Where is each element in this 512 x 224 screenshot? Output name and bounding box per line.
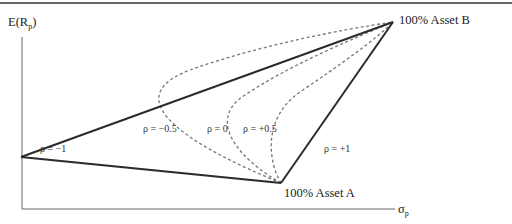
- x-axis-label: σp: [398, 202, 409, 218]
- label-asset-a: 100% Asset A: [284, 186, 355, 200]
- curve-rho-m05: [159, 22, 393, 183]
- label-rho-p1: ρ = +1: [324, 143, 350, 154]
- label-rho-m1: ρ = −1: [40, 143, 66, 154]
- portfolio-frontier-chart: E(Rp) σp ρ = −1 ρ = −0.5 ρ = 0 ρ = +0.5 …: [0, 0, 512, 224]
- curve-rho-p05: [271, 22, 393, 183]
- y-axis-label: E(Rp): [8, 15, 36, 31]
- label-rho-m05: ρ = −0.5: [143, 123, 177, 134]
- curve-rho-0: [227, 22, 393, 183]
- line-rho-m1-lower: [21, 157, 281, 183]
- line-rho-m1-upper: [21, 22, 393, 157]
- label-asset-b: 100% Asset B: [399, 13, 470, 27]
- label-rho-0: ρ = 0: [207, 123, 228, 134]
- label-rho-p05: ρ = +0.5: [243, 123, 277, 134]
